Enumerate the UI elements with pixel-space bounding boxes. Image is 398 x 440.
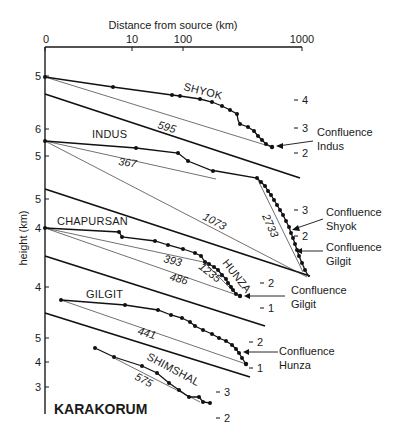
confluence-label: Confluence xyxy=(326,206,382,218)
x-tick-label: 10 xyxy=(126,33,138,45)
river-label-hunza: HUNZA xyxy=(220,257,254,295)
confluence-label: Confluence xyxy=(326,241,382,253)
series-shyok: SHYOK 595 Confluence Indus xyxy=(43,75,373,152)
river-profile-figure: Distance from source (km) 0 10 100 1000 … xyxy=(0,0,398,440)
right-tick-label: 2 xyxy=(302,230,308,242)
y-tick-label: 6 xyxy=(35,123,41,135)
right-tick-label: 3 xyxy=(302,204,308,216)
x-tick-label: 1000 xyxy=(290,33,314,45)
x-axis: Distance from source (km) 0 10 100 1000 xyxy=(43,19,314,51)
y-tick-label: 5 xyxy=(35,332,41,344)
y-tick-label: 4 xyxy=(35,222,41,234)
confluence-label: Confluence xyxy=(317,126,373,138)
y-tick-label: 5 xyxy=(35,193,41,205)
x-tick-label: 0 xyxy=(43,33,49,45)
x-tick-label: 100 xyxy=(174,33,192,45)
confluence-label: Gilgit xyxy=(291,298,316,310)
y-tick-label: 5 xyxy=(35,70,41,82)
chord-label: 1235 xyxy=(197,260,224,285)
right-tick-label: 3 xyxy=(302,122,308,134)
right-tick-label: 3 xyxy=(224,386,230,398)
confluence-label: Confluence xyxy=(291,284,347,296)
chord-label: 367 xyxy=(118,155,139,170)
right-tick-label: 4 xyxy=(302,94,308,106)
right-tick-label: 1 xyxy=(257,362,263,374)
y-tick-label: 3 xyxy=(35,381,41,393)
river-label-indus: INDUS xyxy=(92,128,127,140)
river-label-shyok: SHYOK xyxy=(183,80,225,101)
chord-label: 393 xyxy=(163,252,185,268)
right-tick-label: 2 xyxy=(302,147,308,159)
right-tick-label: 2 xyxy=(257,336,263,348)
confluence-label: Confluence xyxy=(279,345,335,357)
chord-label: 441 xyxy=(136,324,157,341)
region-title: KARAKORUM xyxy=(54,401,147,417)
x-axis-title: Distance from source (km) xyxy=(109,19,238,31)
y-tick-label: 5 xyxy=(35,150,41,162)
y-axis: height (km) 5 6 5 5 4 4 5 4 3 xyxy=(17,47,49,414)
chord-label: 575 xyxy=(133,370,156,390)
y-axis-title: height (km) xyxy=(17,210,29,265)
left-ticks: 5 6 5 5 4 4 5 4 3 xyxy=(35,70,49,393)
river-label-chapursan: CHAPURSAN xyxy=(57,215,128,227)
right-tick-label: 1 xyxy=(268,302,274,314)
river-label-gilgit: GILGIT xyxy=(86,288,123,300)
river-label-shimshal: SHIMSHAL xyxy=(145,350,202,388)
y-tick-label: 4 xyxy=(35,356,41,368)
right-tick-label: 2 xyxy=(268,277,274,289)
chord-label: 595 xyxy=(156,118,178,135)
confluence-label: Hunza xyxy=(279,359,312,371)
right-tick-label: 2 xyxy=(224,412,230,424)
chord-label: 486 xyxy=(168,270,190,287)
confluence-label: Gilgit xyxy=(326,255,351,267)
confluence-label: Shyok xyxy=(326,220,357,232)
y-tick-label: 4 xyxy=(35,281,41,293)
confluence-label: Indus xyxy=(317,140,344,152)
chord-label: 2733 xyxy=(260,211,282,240)
series-shimshal: SHIMSHAL 575 xyxy=(93,346,212,405)
